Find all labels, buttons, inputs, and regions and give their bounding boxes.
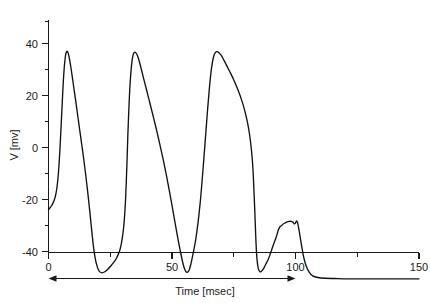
y-tick-label-20: 20	[26, 90, 38, 102]
y-tick-label-40: 40	[26, 38, 38, 50]
action-potential-plot: 40 20 0 -20 -40 V [mv] 0 50 100 150	[0, 0, 430, 303]
x-tick-label-50: 50	[166, 261, 178, 273]
y-axis-title: V [mv]	[8, 129, 20, 160]
membrane-potential-trace	[49, 51, 420, 279]
y-tick-label-minus40: -40	[22, 246, 38, 258]
x-axis-minor-ticks	[110, 253, 357, 257]
chart-figure: 40 20 0 -20 -40 V [mv] 0 50 100 150	[0, 0, 430, 303]
x-tick-label-100: 100	[286, 261, 304, 273]
arrow-head-right	[288, 275, 296, 282]
x-tick-label-150: 150	[410, 261, 428, 273]
y-tick-label-0: 0	[32, 142, 38, 154]
x-tick-label-0: 0	[45, 261, 51, 273]
y-axis-major-ticks	[42, 44, 49, 252]
arrow-head-left	[49, 275, 57, 282]
y-tick-label-minus20: -20	[22, 194, 38, 206]
x-axis-title: Time [msec]	[175, 285, 235, 297]
stimulus-span-arrow	[49, 275, 296, 282]
